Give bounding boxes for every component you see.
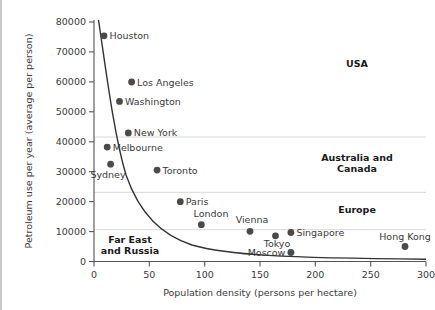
x-axis-ticks xyxy=(94,262,426,267)
data-point-vienna[interactable] xyxy=(247,228,254,235)
data-label-moscow: Moscow xyxy=(248,247,286,258)
data-label-sydney: Sydney xyxy=(90,169,126,180)
x-axis-tick-labels: 0 50 100 150 200 250 300 xyxy=(91,269,435,280)
y-tick-label-80000: 80000 xyxy=(56,16,86,27)
y-tick-label-40000: 40000 xyxy=(56,136,86,147)
y-tick-label-20000: 20000 xyxy=(56,196,86,207)
x-tick-label-100: 100 xyxy=(196,269,214,280)
region-label-far-east-line2: and Russia xyxy=(101,245,159,256)
data-point-paris[interactable] xyxy=(177,198,184,205)
y-axis-title: Petroleum use per year (average per pers… xyxy=(23,34,34,249)
x-tick-label-300: 300 xyxy=(417,269,435,280)
data-label-london: London xyxy=(194,208,229,219)
data-label-melbourne: Melbourne xyxy=(113,142,163,153)
region-label-europe: Europe xyxy=(338,204,376,215)
data-point-singapore[interactable] xyxy=(288,229,295,236)
data-point-los-angeles[interactable] xyxy=(128,79,135,86)
y-tick-label-0: 0 xyxy=(80,256,86,267)
data-point-london[interactable] xyxy=(198,221,205,228)
y-axis-tick-labels: 0 10000 20000 30000 40000 50000 60000 70… xyxy=(56,16,86,266)
x-tick-label-150: 150 xyxy=(251,269,269,280)
data-label-washington: Washington xyxy=(125,96,181,107)
x-axis-title: Population density (persons per hectare) xyxy=(163,287,357,298)
y-axis-ticks xyxy=(89,22,94,262)
x-tick-label-200: 200 xyxy=(306,269,324,280)
region-label-usa: USA xyxy=(346,58,369,69)
data-label-vienna: Vienna xyxy=(236,214,269,225)
x-tick-label-50: 50 xyxy=(143,269,155,280)
data-point-hong-kong[interactable] xyxy=(402,243,409,250)
x-tick-label-0: 0 xyxy=(91,269,97,280)
x-tick-label-250: 250 xyxy=(362,269,380,280)
region-label-australia-canada-line2: Canada xyxy=(337,163,377,174)
y-tick-label-30000: 30000 xyxy=(56,166,86,177)
data-label-toronto: Toronto xyxy=(162,165,198,176)
y-tick-label-70000: 70000 xyxy=(56,46,86,57)
data-label-paris: Paris xyxy=(186,196,209,207)
data-point-washington[interactable] xyxy=(116,98,123,105)
y-tick-label-50000: 50000 xyxy=(56,106,86,117)
data-point-moscow[interactable] xyxy=(288,249,295,256)
region-annotations: USA Australia and Canada Europe Far East… xyxy=(101,58,393,256)
y-tick-label-60000: 60000 xyxy=(56,76,86,87)
data-point-melbourne[interactable] xyxy=(104,144,111,151)
data-label-houston: Houston xyxy=(110,30,149,41)
region-label-australia-canada-line1: Australia and xyxy=(321,152,393,163)
data-label-singapore: Singapore xyxy=(296,227,344,238)
data-point-labels: Houston Los Angeles Washington New York … xyxy=(90,30,430,258)
y-tick-label-10000: 10000 xyxy=(56,226,86,237)
data-point-new-york[interactable] xyxy=(125,130,132,137)
data-point-toronto[interactable] xyxy=(154,167,161,174)
region-label-far-east-line1: Far East xyxy=(108,234,152,245)
data-label-los-angeles: Los Angeles xyxy=(137,77,194,88)
petroleum-vs-density-scatter-chart: 0 10000 20000 30000 40000 50000 60000 70… xyxy=(2,0,435,310)
data-point-sydney[interactable] xyxy=(107,161,114,168)
data-label-new-york: New York xyxy=(134,127,178,138)
data-label-hong-kong: Hong Kong xyxy=(379,231,431,242)
data-point-houston[interactable] xyxy=(101,32,108,39)
